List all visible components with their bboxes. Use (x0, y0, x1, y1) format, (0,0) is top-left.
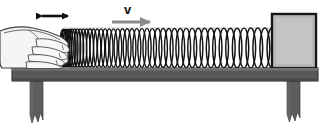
end-block (272, 14, 316, 68)
velocity-label: v (124, 3, 131, 16)
hand-graphic (0, 27, 69, 69)
spring-coil (119, 29, 127, 67)
table-top (12, 68, 318, 81)
spring-coil (128, 29, 136, 68)
diagram-canvas (0, 0, 329, 140)
spring-coils (60, 28, 277, 68)
physics-diagram-scene: v (0, 0, 329, 140)
spring-coil (123, 29, 131, 68)
table-leg-left (30, 79, 43, 123)
table-leg-right (287, 79, 300, 122)
